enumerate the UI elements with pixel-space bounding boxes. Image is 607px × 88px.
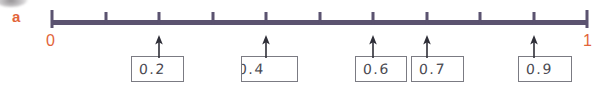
answer-box[interactable]: 0.7 [411, 56, 464, 82]
answer-pointer-arrow-icon [421, 35, 432, 58]
answer-pointer-arrow-icon [261, 35, 272, 58]
axis-tick [211, 12, 214, 25]
axis-tick [372, 12, 375, 25]
answer-value: 0.7 [419, 61, 446, 77]
answer-value: 0.2 [139, 61, 166, 77]
axis-endpoint-tick [586, 10, 589, 28]
axis-tick [479, 12, 482, 25]
axis-tick [425, 12, 428, 25]
answer-pointer-arrow-icon [154, 35, 165, 58]
answer-pointer-arrow-icon [368, 35, 379, 58]
answer-entry: 0.6 [355, 56, 407, 82]
axis-tick [104, 12, 107, 25]
axis-tick [158, 12, 161, 25]
answer-value: 0.4 [241, 61, 265, 77]
answer-box[interactable]: 0.2 [131, 56, 184, 82]
answer-box[interactable]: 0.9 [518, 56, 572, 82]
number-line-worksheet: a 0 1 0.20.40.60.70.9 [0, 0, 607, 88]
axis-endpoint-tick [51, 10, 54, 28]
answer-entry: 0.7 [411, 56, 464, 82]
answer-value: 0.6 [363, 61, 390, 77]
scan-artifact-smudge [0, 0, 28, 7]
axis-tick [318, 12, 321, 25]
answer-pointer-arrow-icon [528, 35, 539, 58]
answer-box[interactable]: 0.4 [241, 56, 298, 82]
axis-label-end: 1 [583, 33, 592, 49]
answer-box[interactable]: 0.6 [355, 56, 407, 82]
axis-tick [265, 12, 268, 25]
part-label-a: a [12, 9, 20, 24]
answer-entry: 0.9 [518, 56, 572, 82]
answer-entry: 0.2 [131, 56, 184, 82]
answer-entry: 0.4 [241, 56, 298, 82]
axis-tick [532, 12, 535, 25]
answer-value: 0.9 [526, 61, 553, 77]
axis-label-start: 0 [46, 33, 55, 49]
